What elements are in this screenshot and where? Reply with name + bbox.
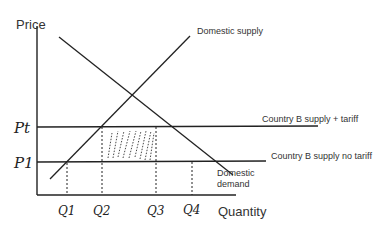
supply-no-tariff-label: Country B supply no tariff xyxy=(271,151,372,161)
domestic-demand-curve xyxy=(59,37,233,175)
price-label-pt: Pt xyxy=(13,119,31,137)
supply-plus-tariff-line xyxy=(37,126,318,127)
x-axis-label: Quantity xyxy=(218,204,267,219)
domestic-supply-curve xyxy=(50,36,190,179)
domestic-supply-label: Domestic supply xyxy=(197,26,264,36)
quantity-label-q4: Q4 xyxy=(183,203,200,217)
price-label-p1: P1 xyxy=(13,154,34,172)
tariff-diagram: Price Quantity Domestic supply Domestic … xyxy=(0,0,382,232)
quantity-label-q1: Q1 xyxy=(58,204,75,218)
y-axis-label: Price xyxy=(16,17,46,32)
tariff-revenue-hatching xyxy=(108,131,154,160)
quantity-label-q2: Q2 xyxy=(93,204,110,218)
domestic-demand-label-2: demand xyxy=(217,179,250,189)
supply-no-tariff-line xyxy=(37,161,266,162)
domestic-demand-label-1: Domestic xyxy=(217,168,255,178)
quantity-label-q3: Q3 xyxy=(147,204,165,218)
supply-plus-tariff-label: Country B supply + tariff xyxy=(262,114,359,124)
